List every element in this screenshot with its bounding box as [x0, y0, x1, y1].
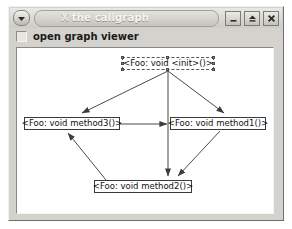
selection-handle[interactable] [121, 62, 124, 65]
selection-handle[interactable] [212, 56, 215, 59]
window-title-area: X the callgraph [34, 10, 219, 27]
maximize-button[interactable] [244, 11, 260, 26]
edge-init-method1 [168, 71, 224, 113]
screenshot-root: X the callgraph [0, 0, 292, 229]
graph-panel[interactable]: <Foo: void <init>()> <Foo: void method3(… [16, 47, 274, 214]
selection-handle[interactable] [166, 56, 169, 59]
graph-node-method3-label: <Foo: void method3()> [22, 119, 122, 128]
application-window: X the callgraph [8, 6, 284, 221]
graph-node-method3[interactable]: <Foo: void method3()> [24, 117, 120, 130]
selection-handle[interactable] [212, 62, 215, 65]
graph-node-method1-label: <Foo: void method1()> [168, 119, 268, 128]
selection-handle[interactable] [166, 68, 169, 71]
graph-node-method2-label: <Foo: void method2()> [93, 182, 193, 191]
selection-handle[interactable] [121, 56, 124, 59]
window-controls [225, 11, 279, 26]
graph-node-method2[interactable]: <Foo: void method2()> [94, 180, 192, 193]
app-glyph-icon: X [61, 13, 69, 23]
window-menu-button[interactable] [13, 10, 30, 26]
selection-handle[interactable] [212, 68, 215, 71]
edge-method2-method3 [68, 133, 106, 180]
minimize-button[interactable] [225, 11, 241, 26]
graph-node-method1[interactable]: <Foo: void method1()> [170, 117, 266, 130]
caret-down-icon [17, 15, 26, 22]
open-graph-viewer-label: open graph viewer [33, 32, 139, 42]
toolbar: open graph viewer [10, 28, 282, 45]
selection-handle[interactable] [121, 68, 124, 71]
graph-node-init[interactable]: <Foo: void <init>()> [122, 57, 214, 70]
window-title: the callgraph [72, 13, 149, 23]
open-graph-viewer-checkbox[interactable] [16, 31, 27, 42]
close-icon [267, 14, 276, 23]
graph-canvas[interactable]: <Foo: void <init>()> <Foo: void method3(… [18, 49, 272, 212]
title-bar[interactable]: X the callgraph [10, 8, 282, 28]
maximize-icon [248, 14, 257, 23]
minimize-icon [229, 14, 238, 23]
graph-node-init-label: <Foo: void <init>()> [123, 59, 213, 68]
close-button[interactable] [263, 11, 279, 26]
edge-init-method3 [82, 71, 168, 113]
edge-method1-method2 [178, 131, 220, 176]
